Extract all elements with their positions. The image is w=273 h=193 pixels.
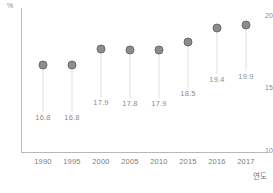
data-point-value-label: 16.8 xyxy=(64,113,79,122)
data-point-marker[interactable] xyxy=(97,45,106,54)
data-point-stem xyxy=(130,50,131,98)
data-point-stem xyxy=(101,49,102,97)
data-point-stem xyxy=(188,42,189,88)
data-point-value-label: 17.8 xyxy=(122,99,137,108)
y-axis-unit-label: % xyxy=(7,2,13,10)
x-axis-tick-label: 2000 xyxy=(92,157,110,166)
x-axis-tick-label: 2005 xyxy=(121,157,139,166)
data-point-value-label: 19.9 xyxy=(238,72,253,81)
x-axis-title: 연도 xyxy=(253,172,267,181)
y-axis-tick-label: 15 xyxy=(256,84,273,92)
data-point-marker[interactable] xyxy=(126,46,135,55)
x-axis-tick-label: 2017 xyxy=(237,157,255,166)
x-axis-tick-label: 2015 xyxy=(179,157,197,166)
data-point-marker[interactable] xyxy=(155,46,164,55)
data-point-marker[interactable] xyxy=(242,21,251,30)
data-point-stem xyxy=(246,25,247,71)
data-point-value-label: 17.9 xyxy=(151,99,166,108)
data-point-marker[interactable] xyxy=(68,61,77,70)
data-point-value-label: 19.4 xyxy=(209,75,224,84)
x-axis-tick-label: 2010 xyxy=(150,157,168,166)
data-point-marker[interactable] xyxy=(39,61,48,70)
data-point-value-label: 18.5 xyxy=(180,89,195,98)
data-point-value-label: 16.8 xyxy=(35,113,50,122)
y-axis-line xyxy=(21,8,22,153)
data-point-stem xyxy=(159,50,160,98)
x-axis-tick-label: 1995 xyxy=(63,157,81,166)
x-axis-tick-label: 2016 xyxy=(208,157,226,166)
data-point-marker[interactable] xyxy=(184,38,193,47)
data-point-marker[interactable] xyxy=(213,24,222,33)
data-point-stem xyxy=(217,28,218,74)
data-point-stem xyxy=(43,65,44,112)
chart-container: % 20 15 10 16.8 16.8 17.9 17.8 17.9 18.5… xyxy=(0,0,273,193)
y-axis-tick-label: 10 xyxy=(256,147,273,155)
y-axis-tick-label: 20 xyxy=(256,12,273,20)
x-axis-tick-label: 1990 xyxy=(34,157,52,166)
x-axis-line xyxy=(21,152,269,153)
data-point-value-label: 17.9 xyxy=(93,98,108,107)
data-point-stem xyxy=(72,65,73,112)
